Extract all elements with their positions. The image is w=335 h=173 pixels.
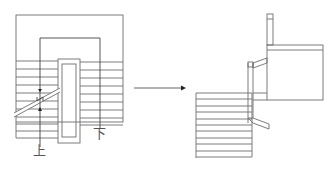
section-lower-rail: [248, 118, 269, 129]
stair-diagram: [0, 0, 335, 173]
section-upper-rail: [253, 58, 267, 68]
down-arrowhead-icon: [38, 89, 42, 92]
up-label: 上: [33, 144, 46, 157]
down-label: 下: [93, 127, 106, 140]
stair-section: [196, 14, 323, 158]
plan-stair-well: [58, 59, 80, 143]
plan-treads-right: [80, 62, 123, 125]
section-top-post: [267, 14, 273, 45]
arrow-right-icon: [181, 86, 186, 91]
plan-break-line: [14, 88, 60, 117]
transform-arrow: [134, 86, 186, 91]
stair-plan: [14, 15, 123, 147]
section-treads: [196, 93, 252, 158]
section-landing: [253, 45, 323, 100]
plan-stair-well-inner: [62, 64, 76, 137]
